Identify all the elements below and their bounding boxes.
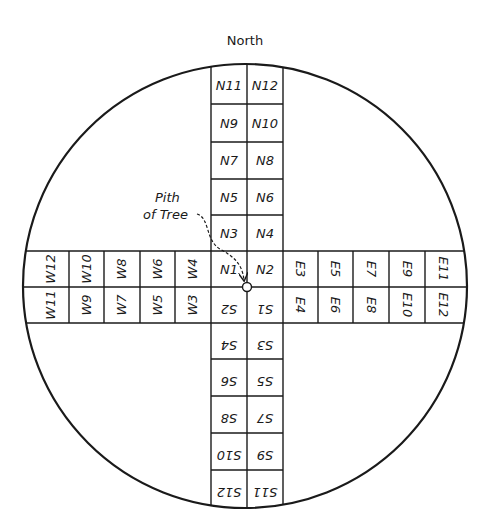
cell-label: E3: [293, 261, 308, 278]
cell-label: N1: [220, 262, 238, 277]
cell-label: S2: [221, 302, 238, 317]
cell-label: S7: [256, 411, 273, 426]
cell-label: N9: [220, 116, 238, 131]
cell-label: E9: [400, 261, 415, 278]
cell-label: S11: [253, 485, 278, 500]
pith-label-line1: Pith: [155, 190, 180, 205]
cell-label: E4: [293, 297, 308, 314]
cell-label: S6: [221, 374, 238, 389]
cell-label: S12: [217, 485, 242, 500]
cell-label: N6: [256, 190, 274, 205]
cell-label: E6: [328, 297, 343, 314]
cell-label: E10: [400, 293, 415, 318]
cell-label: W8: [114, 258, 129, 279]
cell-label: W5: [150, 294, 165, 315]
cell-label: E8: [364, 297, 379, 314]
cell-label: W3: [185, 294, 200, 315]
cell-label: N3: [220, 226, 238, 241]
north-label: North: [227, 33, 263, 48]
cell-label: W9: [79, 294, 94, 315]
cell-label: W12: [43, 254, 58, 283]
cell-label: N2: [256, 262, 274, 277]
cell-label: S3: [257, 338, 274, 353]
cell-label: W11: [43, 290, 58, 319]
cell-label: S5: [257, 374, 274, 389]
cell-label: S4: [221, 338, 238, 353]
tree-cross-section-diagram: North N11 N12 N9 N: [0, 0, 489, 530]
cell-label: E5: [328, 261, 343, 278]
cell-label: N7: [220, 153, 239, 168]
cell-label: E11: [436, 257, 451, 282]
cell-label: E12: [436, 293, 451, 318]
cell-label: N8: [256, 153, 274, 168]
pith-label-line2: of Tree: [143, 207, 188, 222]
cell-label: N11: [216, 78, 242, 93]
cell-label: N12: [252, 78, 278, 93]
cell-label: N5: [220, 190, 238, 205]
cell-label: N4: [256, 226, 274, 241]
cell-label: S10: [217, 448, 242, 463]
cell-label: S9: [257, 448, 274, 463]
cell-label: W4: [185, 258, 200, 279]
cell-label: S1: [257, 302, 274, 317]
cell-label: W10: [79, 254, 94, 283]
cell-label: W6: [150, 258, 165, 279]
cell-label: E7: [364, 261, 379, 278]
cell-label: W7: [114, 294, 129, 316]
cell-label: N10: [252, 116, 278, 131]
cell-label: S8: [221, 411, 238, 426]
pith-marker: [243, 283, 252, 292]
